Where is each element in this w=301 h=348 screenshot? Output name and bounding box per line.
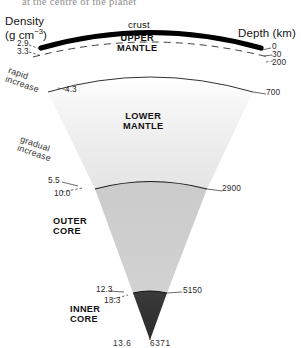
layer-label-lower-mantle: LOWER MANTLE (123, 112, 163, 131)
inner-core-wedge (133, 291, 167, 340)
density-value-crust-base: 3.3 (17, 47, 29, 56)
depth-value-upper-lower-mantle: 700 (266, 88, 280, 97)
layer-label-upper-mantle: UPPER MANTLE (117, 34, 157, 53)
centre-depth-value: 6371 (150, 340, 171, 348)
earth-structure-figure: at the centre of the planet (0, 0, 301, 348)
layer-label-inner-core-line2: CORE (70, 315, 100, 325)
layer-label-lower-mantle-line2: MANTLE (123, 122, 163, 132)
layer-label-crust: crust (128, 20, 150, 30)
density-value-mantle-base: 5.5 (48, 176, 60, 185)
lower-mantle-wedge (48, 77, 253, 189)
density-unit-exponent: −3 (34, 27, 43, 36)
density-value-transition: 4.3 (65, 85, 77, 94)
layer-label-outer-core: OUTER CORE (53, 217, 87, 236)
density-value-outer-core-top: 10.0 (54, 189, 71, 198)
layer-label-outer-core-line2: CORE (53, 227, 87, 237)
depth-axis-title: Depth (km) (238, 28, 296, 40)
depth-value-core-mantle-boundary: 2900 (222, 184, 241, 193)
density-unit-suffix: ) (43, 29, 47, 41)
layer-label-inner-core: INNER CORE (70, 305, 100, 324)
density-value-outer-core-base: 12.3 (96, 285, 113, 294)
density-value-inner-core-top: 13.3 (104, 296, 121, 305)
depth-value-low-velocity: 200 (272, 58, 286, 67)
outer-core-wedge (95, 182, 207, 294)
depth-value-inner-outer-core: 5150 (183, 286, 202, 295)
centre-density-value: 13.6 (113, 340, 131, 348)
layer-label-upper-mantle-line2: MANTLE (117, 44, 157, 54)
